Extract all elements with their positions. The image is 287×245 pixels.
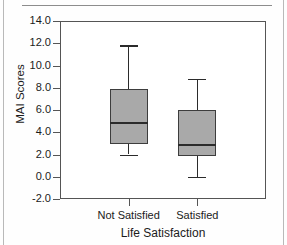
whisker-lower [197,156,199,177]
y-axis-tick-label: 10.0 [1,60,51,71]
y-axis-tick-label: 4.0 [1,126,51,137]
y-axis-tick-label-wrap: 2.0 [0,155,60,156]
whisker-cap-upper [120,45,138,47]
whisker-cap-upper [188,79,206,81]
median-line [178,144,216,146]
y-axis-tick-label: 12.0 [1,37,51,48]
y-axis-tick-label: 6.0 [1,104,51,115]
y-axis-tick-label-wrap: 0.0 [0,177,60,178]
y-axis-tick-label-wrap: 14.0 [0,21,60,22]
median-line [110,122,148,124]
whisker-cap-lower [120,155,138,157]
whisker-upper [128,45,130,88]
whisker-cap-lower [188,177,206,179]
y-axis-tick-label-wrap: 6.0 [0,110,60,111]
box-iqr [110,89,148,145]
x-axis-title: Life Satisfaction [60,226,266,240]
x-axis-tick-label: Satisfied [142,209,252,221]
y-axis-tick-label: -2.0 [1,193,51,204]
scanned-page: 14.012.010.08.06.04.02.00.0-2.0 MAI Scor… [0,0,287,245]
y-axis-tick-label: 0.0 [1,171,51,182]
x-axis-tick [197,199,198,206]
whisker-lower [128,144,130,154]
y-axis-tick-label: 14.0 [1,15,51,26]
y-axis-tick-label: 8.0 [1,82,51,93]
y-axis-title: MAI Scores [14,39,26,149]
plot-area [60,21,266,199]
box-plot-chart: 14.012.010.08.06.04.02.00.0-2.0 MAI Scor… [0,0,287,245]
y-axis-tick-label: 2.0 [1,149,51,160]
whisker-upper [197,79,199,110]
y-axis-tick-label-wrap: 12.0 [0,43,60,44]
x-axis-tick [129,199,130,206]
box-iqr [178,110,216,156]
y-axis-tick-label-wrap: -2.0 [0,199,60,200]
y-axis-tick-label-wrap: 10.0 [0,66,60,67]
y-axis-tick-label-wrap: 4.0 [0,132,60,133]
y-axis-tick-label-wrap: 8.0 [0,88,60,89]
